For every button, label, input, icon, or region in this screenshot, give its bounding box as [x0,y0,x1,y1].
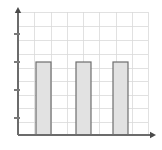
bar [76,62,91,135]
bars-group [36,62,128,135]
bar [36,62,51,135]
bar [113,62,128,135]
chart-canvas [0,0,162,150]
bar-chart-figure [0,0,162,150]
